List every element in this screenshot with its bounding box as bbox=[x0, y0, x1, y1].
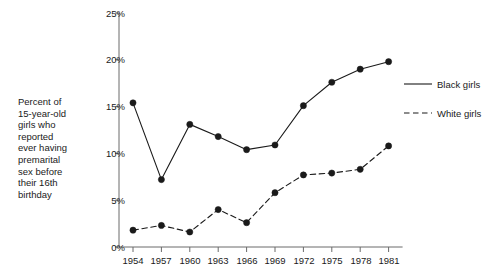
legend-label-black-girls: Black girls bbox=[437, 79, 480, 90]
legend-label-white-girls: White girls bbox=[437, 108, 481, 119]
data-point-black-girls-1963 bbox=[215, 133, 221, 139]
x-tick-label-1960: 1960 bbox=[175, 255, 205, 266]
x-tick-label-1966: 1966 bbox=[232, 255, 262, 266]
x-tick-label-1981: 1981 bbox=[374, 255, 404, 266]
x-tick-label-1969: 1969 bbox=[260, 255, 290, 266]
data-point-black-girls-1960 bbox=[187, 121, 193, 127]
data-point-white-girls-1960 bbox=[187, 229, 193, 235]
data-point-white-girls-1957 bbox=[158, 222, 164, 228]
data-point-black-girls-1957 bbox=[158, 177, 164, 183]
x-tick-label-1954: 1954 bbox=[118, 255, 148, 266]
data-point-black-girls-1978 bbox=[357, 66, 363, 72]
x-tick-label-1963: 1963 bbox=[203, 255, 233, 266]
y-tick-label-5: 5% bbox=[95, 195, 125, 206]
data-point-white-girls-1972 bbox=[300, 172, 306, 178]
axes-group bbox=[115, 13, 403, 252]
x-tick-label-1972: 1972 bbox=[289, 255, 319, 266]
data-point-white-girls-1954 bbox=[130, 227, 136, 233]
chart-figure: Percent of 15-year-old girls who reporte… bbox=[0, 0, 497, 277]
y-tick-label-20: 20% bbox=[95, 54, 125, 65]
data-point-white-girls-1966 bbox=[244, 220, 250, 226]
data-point-black-girls-1981 bbox=[386, 59, 392, 65]
data-point-white-girls-1963 bbox=[215, 206, 221, 212]
data-point-black-girls-1969 bbox=[272, 142, 278, 148]
series-group bbox=[130, 59, 392, 236]
y-tick-label-0: 0% bbox=[95, 242, 125, 253]
legend-marks-group bbox=[404, 84, 432, 113]
x-tick-label-1978: 1978 bbox=[346, 255, 376, 266]
y-tick-label-25: 25% bbox=[95, 8, 125, 19]
x-tick-label-1957: 1957 bbox=[146, 255, 176, 266]
data-point-black-girls-1954 bbox=[130, 100, 136, 106]
data-point-black-girls-1966 bbox=[244, 147, 250, 153]
x-tick-label-1975: 1975 bbox=[317, 255, 347, 266]
y-axis-caption: Percent of 15-year-old girls who reporte… bbox=[18, 96, 102, 200]
data-point-white-girls-1969 bbox=[272, 190, 278, 196]
data-point-black-girls-1975 bbox=[329, 79, 335, 85]
data-point-white-girls-1978 bbox=[357, 166, 363, 172]
series-line-white-girls bbox=[133, 146, 389, 232]
y-tick-label-15: 15% bbox=[95, 101, 125, 112]
data-point-black-girls-1972 bbox=[300, 103, 306, 109]
data-point-white-girls-1981 bbox=[386, 143, 392, 149]
data-point-white-girls-1975 bbox=[329, 170, 335, 176]
series-line-black-girls bbox=[133, 62, 389, 180]
y-tick-label-10: 10% bbox=[95, 148, 125, 159]
